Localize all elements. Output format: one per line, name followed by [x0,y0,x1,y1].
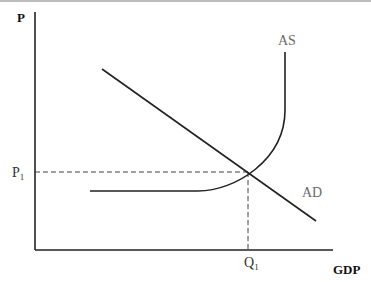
ad-as-diagram [0,0,371,282]
ad-label: AD [302,186,322,200]
y-axis-label: P [17,11,25,24]
ad-curve [102,69,316,221]
quantity-subscript: 1 [254,262,259,272]
as-label: AS [278,34,296,48]
price-p1-label: P1 [12,166,24,182]
price-letter: P [12,165,20,180]
price-subscript: 1 [20,172,25,182]
quantity-q1-label: Q1 [244,256,259,272]
as-curve [90,52,285,191]
x-axis-label: GDP [333,263,360,276]
quantity-letter: Q [244,255,254,270]
